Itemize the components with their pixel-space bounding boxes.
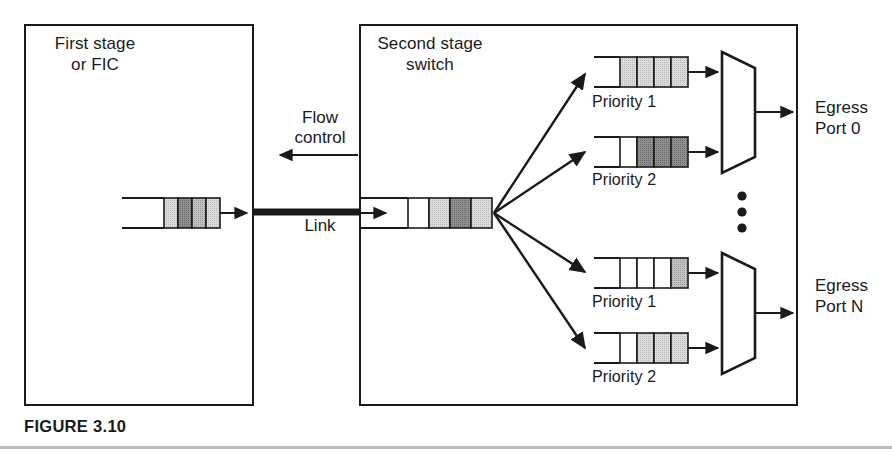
first-stage-label: First stage or FIC [36,33,154,75]
priority-label-p0-1: Priority 1 [592,92,656,111]
caption-rule [0,446,892,449]
second-stage-label: Second stage switch [368,33,492,75]
priority-label-pn-1: Priority 1 [592,292,656,311]
egress-port-n-label: Egress Port N [815,275,868,317]
vertical-ellipsis-icon [737,191,746,232]
egress-port-0-label: Egress Port 0 [815,97,868,139]
priority-label-p0-2: Priority 2 [592,170,656,189]
priority-label-pn-2: Priority 2 [592,367,656,386]
figure-caption: FIGURE 3.10 [24,417,126,436]
flow-control-label: Flow control [275,108,365,148]
figure-page: First stage or FIC Second stage switch F… [0,0,892,453]
link-label: Link [276,216,364,236]
